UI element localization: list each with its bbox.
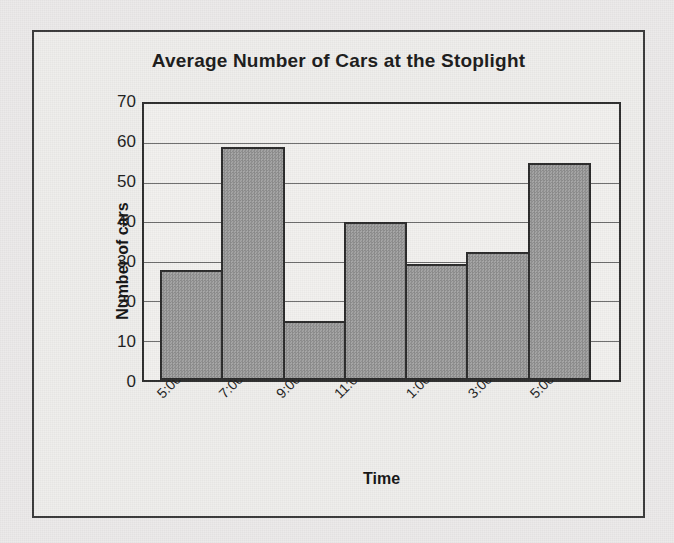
bar xyxy=(528,163,591,380)
y-axis-title: Number of cars xyxy=(114,176,132,346)
chart-figure-frame: Average Number of Cars at the Stoplight … xyxy=(32,30,645,518)
bar xyxy=(466,252,529,380)
bar xyxy=(221,147,284,380)
x-tick-slot: 9:00-10:59 xyxy=(282,386,344,466)
y-tick-label: 70 xyxy=(117,92,136,112)
x-axis-tick-labels: 5:00-6:59 7:00-8:59 9:00-10:59 11:00-12:… xyxy=(142,386,621,466)
y-tick-label: 60 xyxy=(117,132,136,152)
bar xyxy=(283,321,346,380)
x-tick-slot: 1:00-2:59 xyxy=(407,386,469,466)
x-tick-slot: 5:00-6:59 xyxy=(158,386,220,466)
bar xyxy=(344,222,407,380)
y-axis-tick-labels: 70 60 50 40 30 20 10 0 Number of cars xyxy=(86,102,136,382)
x-tick-slot: 3:00-4:59 xyxy=(469,386,531,466)
x-tick-slot: 7:00-8:59 xyxy=(220,386,282,466)
x-tick-slot: 11:00-12:59 xyxy=(344,386,406,466)
plot-area xyxy=(142,102,621,382)
x-axis-title: Time xyxy=(142,470,621,488)
chart-title: Average Number of Cars at the Stoplight xyxy=(34,50,643,72)
x-tick-slot: 5:00-6:59 xyxy=(531,386,593,466)
bar-series xyxy=(144,104,619,380)
y-tick-label: 0 xyxy=(127,372,136,392)
bar xyxy=(405,264,468,380)
bar xyxy=(160,270,223,380)
